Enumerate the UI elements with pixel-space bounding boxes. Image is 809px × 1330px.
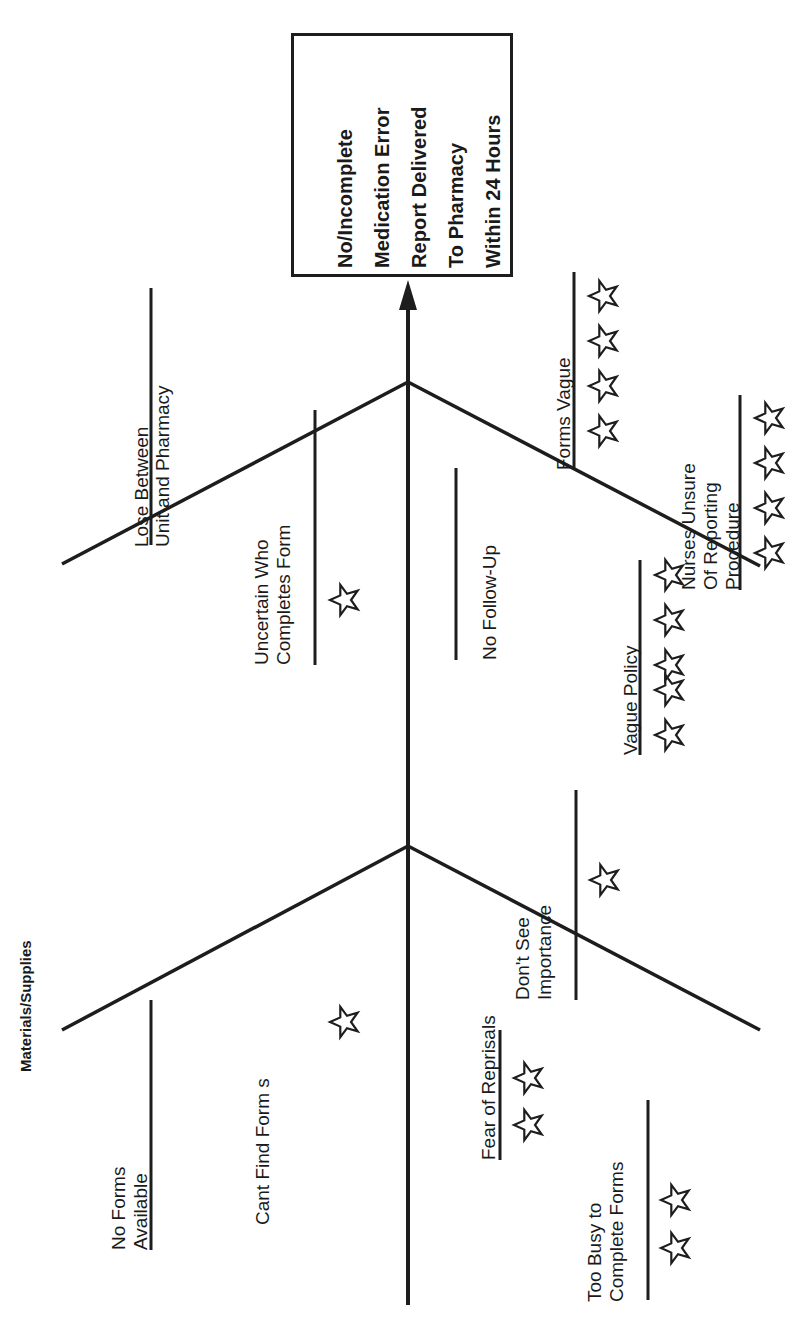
- effect-box: No/Incomplete Medication Error Report De…: [291, 33, 513, 277]
- bone-lower-left: [62, 846, 408, 1030]
- effect-line-5: Within 24 Hours: [482, 114, 504, 268]
- category-label-materials-supplies: Materials/Supplies: [18, 940, 35, 1072]
- cause-label-nurses-unsure-1: Nurses Unsure: [678, 463, 699, 590]
- effect-line-1: No/Incomplete: [334, 129, 356, 268]
- cause-label-dont-see-2: Importance: [534, 905, 555, 1000]
- cause-label-vague-policy: Vague Policy: [620, 646, 641, 756]
- effect-line-2: Medication Error: [371, 107, 393, 268]
- cause-label-uncertain-who-1: Uncertain Who: [251, 539, 272, 665]
- cause-label-forms-vague: Forms Vague: [553, 357, 574, 470]
- cause-label-lose-between-2: Unit and Pharmacy: [152, 385, 173, 547]
- cause-label-no-forms-1: No Forms: [108, 1167, 129, 1250]
- cause-label-uncertain-who-2: Completes Form: [273, 525, 294, 665]
- cause-label-nurses-unsure-3: Procedure: [722, 502, 743, 590]
- cause-label-too-busy-1: Too Busy to: [584, 1203, 605, 1302]
- cause-label-no-forms-2: Available: [130, 1173, 151, 1250]
- cause-label-nurses-unsure-2: Of Reporting: [700, 482, 721, 590]
- cause-label-lose-between-1: Lose Between: [131, 427, 152, 547]
- effect-line-4: To Pharmacy: [445, 143, 467, 268]
- cause-label-too-busy-2: Complete Forms: [606, 1162, 627, 1302]
- spine: [399, 280, 417, 1305]
- bone-upper-left: [62, 382, 408, 564]
- cause-label-fear-of-reprisals: Fear of Reprisals: [478, 1015, 499, 1160]
- cause-label-dont-see-1: Don't See: [512, 917, 533, 1000]
- fishbone-diagram-canvas: No/Incomplete Medication Error Report De…: [0, 0, 809, 1330]
- bone-lower-right: [408, 846, 760, 1030]
- cause-label-no-follow-up: No Follow-Up: [479, 545, 500, 660]
- cause-label-cant-find-forms: Cant Find Form s: [252, 1078, 273, 1225]
- effect-line-3: Report Delivered: [408, 106, 430, 268]
